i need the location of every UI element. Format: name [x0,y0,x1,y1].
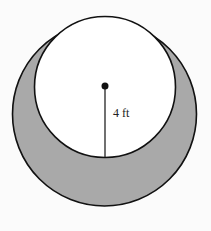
circle-diagram: 4 ft [0,0,211,231]
radius-label: 4 ft [113,106,130,120]
center-point [102,83,109,90]
